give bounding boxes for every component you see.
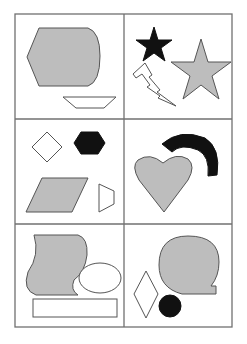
cell-r1c2 [133, 27, 231, 106]
black-circle-shape [159, 295, 181, 317]
white-diamond-shape [134, 271, 158, 318]
shape-grid-figure [0, 0, 247, 344]
gray-wave-shape [26, 235, 87, 295]
gray-star-shape [171, 39, 231, 99]
white-trapezoid-shape [63, 97, 116, 108]
gray-hexagon-shape [27, 28, 100, 86]
gray-notched-circle-shape [159, 236, 219, 294]
cell-r2c2 [135, 134, 218, 212]
white-lightning-bolt-shape [133, 63, 176, 106]
gray-parallelogram-shape [26, 178, 88, 212]
white-diamond-shape [32, 132, 62, 162]
cell-r2c1 [26, 132, 114, 212]
white-trapezoid-shape [99, 184, 114, 212]
cell-r1c1 [27, 28, 116, 108]
black-star-shape [136, 27, 172, 61]
cell-r3c1 [26, 235, 121, 317]
cell-r3c2 [134, 236, 219, 318]
black-hexagon-shape [74, 132, 105, 154]
white-rectangle-shape [33, 299, 117, 317]
white-ellipse-shape [79, 263, 121, 293]
gray-heart-shape [135, 156, 192, 212]
